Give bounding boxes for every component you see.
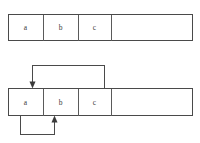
top-array-background	[8, 14, 193, 41]
arrow-c-to-a-head-icon	[30, 82, 36, 89]
arrow-a-to-b	[21, 116, 58, 135]
arrow-c-to-a	[30, 66, 105, 89]
arrow-a-to-b-head-icon	[52, 116, 58, 123]
top-cell-b-label: b	[59, 23, 63, 32]
array-pointer-diagram: a b c a b c	[0, 0, 200, 143]
bottom-cell-b-label: b	[59, 98, 63, 107]
bottom-array-group: a b c	[8, 66, 193, 135]
bottom-array-background	[8, 88, 193, 116]
arrow-a-to-b-line	[21, 116, 55, 135]
diagram-canvas: a b c a b c	[0, 0, 200, 143]
top-array-group: a b c	[8, 14, 193, 41]
arrow-c-to-a-line	[33, 66, 105, 89]
